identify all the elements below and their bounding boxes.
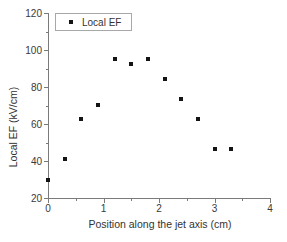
legend: Local EF <box>55 13 132 31</box>
y-tick-label: 120 <box>12 8 42 19</box>
y-tick-label: 60 <box>12 119 42 130</box>
y-tick-label: 40 <box>12 156 42 167</box>
legend-label: Local EF <box>82 17 121 28</box>
data-point-square <box>63 157 67 161</box>
x-minor-tick <box>131 199 132 201</box>
data-point-square <box>163 77 167 81</box>
y-minor-tick <box>46 106 48 107</box>
y-major-tick <box>44 50 48 51</box>
data-point-square <box>179 97 183 101</box>
scatter-chart: Local EF (kV/cm) Position along the jet … <box>0 0 287 242</box>
y-tick-label: 80 <box>12 82 42 93</box>
data-point-square <box>213 147 217 151</box>
x-axis-title: Position along the jet axis (cm) <box>89 218 232 230</box>
y-major-tick <box>44 87 48 88</box>
data-point-square <box>96 103 100 107</box>
y-minor-tick <box>46 32 48 33</box>
data-point-square <box>196 117 200 121</box>
x-tick-label: 2 <box>148 203 170 214</box>
y-major-tick <box>44 161 48 162</box>
data-point-square <box>79 117 83 121</box>
y-minor-tick <box>46 69 48 70</box>
x-tick-label: 4 <box>259 203 281 214</box>
x-tick-label: 0 <box>37 203 59 214</box>
x-minor-tick <box>187 199 188 201</box>
y-tick-label: 20 <box>12 193 42 204</box>
x-minor-tick <box>242 199 243 201</box>
y-major-tick <box>44 198 48 199</box>
x-minor-tick <box>76 199 77 201</box>
y-major-tick <box>44 124 48 125</box>
y-minor-tick <box>46 143 48 144</box>
data-point-square <box>129 62 133 66</box>
x-tick-label: 1 <box>93 203 115 214</box>
data-point-square <box>46 178 50 182</box>
y-axis-line <box>48 13 49 199</box>
x-tick-label: 3 <box>204 203 226 214</box>
data-point-square <box>113 57 117 61</box>
y-tick-label: 100 <box>12 45 42 56</box>
data-point-square <box>229 147 233 151</box>
y-major-tick <box>44 13 48 14</box>
data-point-square <box>146 57 150 61</box>
legend-marker-square-icon <box>69 20 73 24</box>
